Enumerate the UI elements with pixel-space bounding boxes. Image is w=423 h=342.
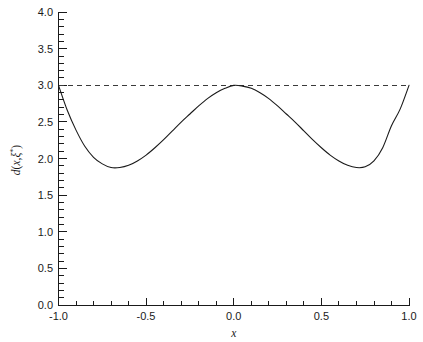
- x-axis-title: x: [230, 327, 237, 339]
- y-tick-label: 2.5: [38, 116, 53, 128]
- y-tick-label: 4.0: [38, 6, 53, 18]
- x-tick-label: 0.5: [314, 310, 329, 322]
- x-tick-label: 1.0: [401, 310, 416, 322]
- svg-text:d(x,ξ*): d(x,ξ*): [9, 145, 24, 176]
- y-tick-label: 2.0: [38, 153, 53, 165]
- y-tick-label: 1.5: [38, 189, 53, 201]
- y-tick-label: 3.5: [38, 43, 53, 55]
- y-axis-tick-labels: 4.0 3.5 3.0 2.5 2.0 1.5 1.0 0.5 0.0: [38, 6, 53, 311]
- x-tick-label: -0.5: [137, 310, 156, 322]
- x-tick-label: -1.0: [49, 310, 68, 322]
- y-tick-label: 0.5: [38, 262, 53, 274]
- y-tick-label: 3.0: [38, 79, 53, 91]
- variance-function-chart: 4.0 3.5 3.0 2.5 2.0 1.5 1.0 0.5 0.0 d(x,…: [0, 0, 423, 342]
- y-tick-label: 1.0: [38, 226, 53, 238]
- x-tick-label: 0.0: [226, 310, 241, 322]
- chart-figure: 4.0 3.5 3.0 2.5 2.0 1.5 1.0 0.5 0.0 d(x,…: [0, 0, 423, 342]
- y-axis-title: d(x,ξ*): [9, 145, 24, 176]
